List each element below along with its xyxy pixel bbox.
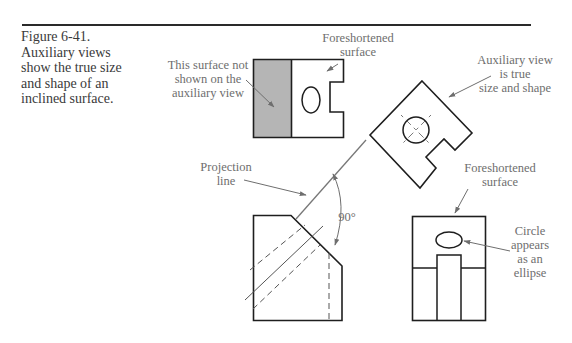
label-line: surface (460, 175, 540, 189)
shaded-surface (254, 60, 292, 138)
label-line: size and shape (470, 81, 560, 95)
hidden-line-diagonal-2 (253, 245, 320, 309)
label-line: Foreshortened (318, 31, 398, 45)
hidden-line-diagonal-1 (250, 225, 305, 270)
label-surface-not-shown: This surface not shown on the auxiliary … (165, 58, 251, 100)
label-line: Projection (196, 160, 256, 174)
projection-extension (245, 226, 323, 300)
side-view (245, 216, 342, 321)
label-angle-90: 90° (335, 210, 359, 224)
label-projection-line: Projection line (196, 160, 256, 188)
label-foreshortened-top: Foreshortened surface (318, 31, 398, 59)
label-line: line (196, 174, 256, 188)
label-line: as an (507, 252, 553, 266)
auxiliary-view (370, 81, 472, 188)
label-line: Auxiliary view (470, 53, 560, 67)
label-line: Foreshortened (460, 161, 540, 175)
label-line: shown on the (165, 72, 251, 86)
label-line: surface (318, 45, 398, 59)
label-circle-ellipse: Circle appears as an ellipse (507, 224, 553, 280)
top-view (254, 60, 344, 138)
right-side-view (413, 217, 486, 321)
label-line: is true (470, 67, 560, 81)
right-view-slot (437, 255, 461, 321)
ellipse-hole (436, 232, 462, 248)
foreshortened-hole (302, 87, 320, 113)
leader-circle-ellipse (464, 241, 510, 251)
label-auxiliary-true: Auxiliary view is true size and shape (470, 53, 560, 95)
label-line: ellipse (507, 266, 553, 280)
projection-line (296, 140, 366, 219)
label-foreshortened-bottom: Foreshortened surface (460, 161, 540, 189)
label-line: Circle (507, 224, 553, 238)
label-line: This surface not (165, 58, 251, 72)
leader-foreshortened-bottom (455, 189, 468, 213)
label-line: appears (507, 238, 553, 252)
label-line: auxiliary view (165, 86, 251, 100)
leader-foreshortened-top (327, 64, 338, 71)
